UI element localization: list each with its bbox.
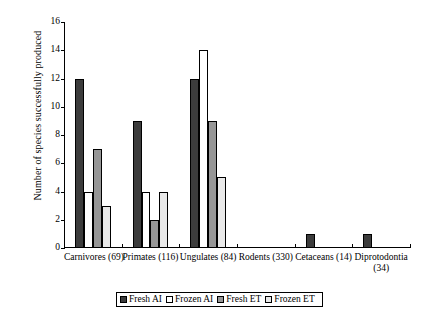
bar bbox=[208, 121, 217, 248]
legend-swatch bbox=[120, 296, 127, 303]
bar bbox=[217, 177, 226, 248]
bar-chart: Number of species successfully produced … bbox=[0, 0, 432, 325]
bar bbox=[363, 234, 372, 248]
x-axis-label: Ungulates (84) bbox=[179, 252, 237, 263]
y-tick-label: 2 bbox=[55, 215, 60, 225]
x-axis-label-line: Rodents (330) bbox=[239, 252, 293, 262]
y-tick-label: 4 bbox=[55, 187, 60, 197]
legend-label: Fresh AI bbox=[129, 294, 162, 305]
legend-swatch bbox=[166, 296, 173, 303]
legend-label: Frozen ET bbox=[274, 294, 314, 305]
y-tick bbox=[61, 248, 65, 249]
bar-group bbox=[248, 22, 284, 248]
bar bbox=[102, 206, 111, 248]
x-axis-label: Primates (116) bbox=[122, 252, 180, 263]
bar bbox=[150, 220, 159, 248]
legend-label: Frozen AI bbox=[175, 294, 213, 305]
bar bbox=[93, 149, 102, 248]
bar-group bbox=[306, 22, 342, 248]
y-tick-label: 0 bbox=[55, 243, 60, 253]
legend-swatch bbox=[265, 296, 272, 303]
legend-item: Frozen AI bbox=[166, 294, 217, 305]
x-axis-label: Carnivores (69) bbox=[64, 252, 122, 263]
x-axis-labels: Carnivores (69)Primates (116)Ungulates (… bbox=[64, 252, 410, 284]
x-axis-label-line: Carnivores (69) bbox=[64, 252, 124, 262]
x-axis-label: Rodents (330) bbox=[237, 252, 295, 263]
bar bbox=[133, 121, 142, 248]
legend-item: Fresh AI bbox=[120, 294, 166, 305]
bar bbox=[190, 79, 199, 249]
bar bbox=[159, 192, 168, 249]
y-tick-label: 14 bbox=[51, 46, 61, 56]
legend-item: Frozen ET bbox=[265, 294, 318, 305]
bar-group bbox=[75, 22, 111, 248]
y-tick-label: 8 bbox=[55, 130, 60, 140]
y-axis-title: Number of species successfully produced bbox=[32, 16, 43, 216]
bar bbox=[84, 192, 93, 249]
chart-legend: Fresh AIFrozen AIFresh ETFrozen ET bbox=[116, 292, 323, 307]
y-tick-label: 12 bbox=[51, 74, 61, 84]
bar bbox=[306, 234, 315, 248]
x-axis-label-line: Cetaceans (14) bbox=[295, 252, 352, 262]
bar bbox=[199, 50, 208, 248]
bars-layer bbox=[64, 22, 410, 248]
y-tick-label: 16 bbox=[51, 17, 61, 27]
y-tick-label: 10 bbox=[51, 102, 61, 112]
legend-swatch bbox=[217, 296, 224, 303]
x-axis-label-line: Diprotodontia bbox=[355, 252, 408, 262]
x-axis-label-line: Ungulates (84) bbox=[180, 252, 237, 262]
x-tick bbox=[410, 244, 411, 248]
x-axis-label-line: Primates (116) bbox=[123, 252, 179, 262]
bar bbox=[75, 79, 84, 249]
plot-area: 0246810121416 bbox=[64, 22, 410, 248]
legend-label: Fresh ET bbox=[226, 294, 261, 305]
x-axis-label-line: (34) bbox=[352, 263, 410, 274]
x-axis-label: Cetaceans (14) bbox=[295, 252, 353, 263]
bar-group bbox=[190, 22, 226, 248]
y-tick-label: 6 bbox=[55, 159, 60, 169]
x-axis-label: Diprotodontia(34) bbox=[352, 252, 410, 274]
bar-group bbox=[133, 22, 169, 248]
bar bbox=[142, 192, 151, 249]
legend-item: Fresh ET bbox=[217, 294, 265, 305]
bar-group bbox=[363, 22, 399, 248]
